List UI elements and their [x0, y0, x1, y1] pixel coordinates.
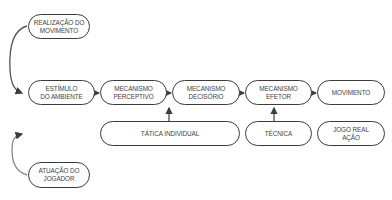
box-realizacao-movimento: REALIZAÇÃO DO MOVIMENTO: [28, 14, 90, 39]
box-mecanismo-efetor: MECANISMO EFETOR: [245, 80, 312, 105]
feedback-arrow-bottom: [12, 134, 27, 175]
feedback-arrow-top: [10, 26, 27, 93]
box-atuacao-jogador: ATUAÇÃO DO JOGADOR: [28, 162, 90, 188]
box-mecanismo-decisorio: MECANISMO DECISÓRIO: [172, 80, 240, 105]
box-movimento: MOVIMENTO: [317, 80, 385, 105]
box-jogo-real-acao: JOGO REAL AÇÃO: [317, 121, 385, 146]
box-estimulo-ambiente: ESTÍMULO DO AMBIENTE: [28, 80, 95, 105]
box-tecnica: TÉCNICA: [245, 121, 312, 146]
box-mecanismo-perceptivo: MECANISMO PERCEPTIVO: [100, 80, 167, 105]
box-tatica-individual: TÁTICA INDIVIDUAL: [100, 121, 240, 146]
